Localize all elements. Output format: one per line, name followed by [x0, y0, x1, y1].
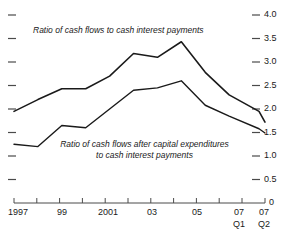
x-axis-label-1997: 1997 [8, 207, 28, 217]
series-line-cash-flows [14, 42, 265, 122]
x-axis-label-99: 99 [57, 207, 67, 217]
y-axis-label-0-5: 0.5 [264, 174, 277, 184]
x-axis-label-05: 05 [192, 207, 202, 217]
x-axis-label-2001: 2001 [98, 207, 118, 217]
x-axis-sublabel-q1: Q1 [233, 219, 245, 229]
x-axis-label-07-q2: 07 [259, 207, 269, 217]
series-line-cash-flows-after-capex [14, 81, 265, 147]
y-axis-label-4-0: 4.0 [264, 9, 277, 19]
y-axis-label-0: 0 [269, 197, 274, 207]
y-axis-label-3-0: 3.0 [264, 56, 277, 66]
lower-series-annotation-line1: Ratio of cash flows after capital expend… [57, 139, 232, 150]
y-axis-label-3-5: 3.5 [264, 33, 277, 43]
x-axis-label-07-q1: 07 [234, 207, 244, 217]
upper-series-annotation: Ratio of cash flows to cash interest pay… [33, 25, 204, 36]
y-axis-label-2-0: 2.0 [264, 103, 277, 113]
y-axis-label-1-5: 1.5 [264, 127, 277, 137]
x-axis-label-03: 03 [147, 207, 157, 217]
y-axis-right-ticks [252, 15, 260, 180]
lower-series-annotation-line2: to cash interest payments [57, 150, 232, 161]
chart-container: 4.0 3.5 3.0 2.5 2.0 1.5 1.0 0.5 0 1997 9… [0, 0, 290, 236]
lower-series-annotation: Ratio of cash flows after capital expend… [57, 139, 232, 161]
x-axis-sublabel-q2: Q2 [258, 219, 270, 229]
y-axis-label-1-0: 1.0 [264, 150, 277, 160]
y-axis-label-2-5: 2.5 [264, 80, 277, 90]
x-axis-ticks [14, 198, 265, 203]
y-axis-left-ticks [8, 15, 16, 180]
